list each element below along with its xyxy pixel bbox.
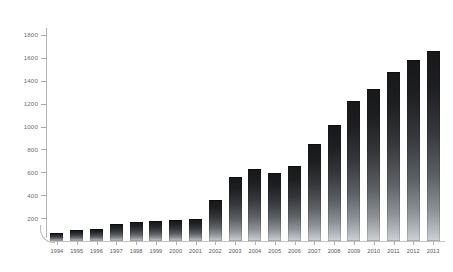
- x-tick-mark: [295, 241, 296, 245]
- x-axis-line: [47, 241, 445, 242]
- y-tick-label: 1200: [0, 100, 38, 107]
- bar: [70, 230, 83, 241]
- x-tick-mark: [334, 241, 335, 245]
- x-tick-label: 1998: [130, 248, 143, 254]
- bar-chart: 20040060080010001200140016001800 1994199…: [0, 0, 453, 272]
- x-tick-mark: [196, 241, 197, 245]
- x-tick-label: 2004: [248, 248, 261, 254]
- bar: [130, 222, 143, 241]
- x-tick-mark: [275, 241, 276, 245]
- y-tick-label: 1600: [0, 54, 38, 61]
- bar: [328, 125, 341, 241]
- bar: [110, 224, 123, 241]
- bar: [229, 177, 242, 241]
- x-tick-mark: [136, 241, 137, 245]
- x-tick-mark: [156, 241, 157, 245]
- x-tick-mark: [77, 241, 78, 245]
- x-tick-label: 2001: [189, 248, 202, 254]
- bar: [189, 219, 202, 241]
- bar: [50, 233, 63, 241]
- x-tick-mark: [116, 241, 117, 245]
- x-tick-label: 2011: [387, 248, 399, 254]
- x-tick-label: 2005: [268, 248, 281, 254]
- x-tick-mark: [97, 241, 98, 245]
- x-tick-label: 2010: [367, 248, 380, 254]
- bar: [407, 60, 420, 241]
- x-tick-mark: [235, 241, 236, 245]
- y-tick-label: 600: [0, 169, 38, 176]
- y-tick-label: 1400: [0, 77, 38, 84]
- x-tick-mark: [374, 241, 375, 245]
- bar: [347, 101, 360, 241]
- plot-area: [47, 28, 443, 241]
- x-tick-label: 2008: [328, 248, 341, 254]
- x-tick-label: 1997: [110, 248, 123, 254]
- bar: [367, 89, 380, 241]
- bar: [248, 169, 261, 241]
- x-tick-label: 2007: [308, 248, 321, 254]
- y-tick-label: 1800: [0, 31, 38, 38]
- y-tick-label: 800: [0, 146, 38, 153]
- x-tick-mark: [176, 241, 177, 245]
- x-tick-mark: [354, 241, 355, 245]
- x-tick-label: 2002: [209, 248, 222, 254]
- bar: [268, 173, 281, 241]
- bar: [149, 221, 162, 241]
- y-tick-label: 400: [0, 192, 38, 199]
- x-tick-mark: [314, 241, 315, 245]
- x-tick-label: 2012: [407, 248, 420, 254]
- x-tick-mark: [394, 241, 395, 245]
- bar: [169, 220, 182, 241]
- x-tick-label: 2000: [169, 248, 182, 254]
- x-tick-mark: [413, 241, 414, 245]
- bar: [427, 51, 440, 241]
- x-tick-label: 2003: [229, 248, 242, 254]
- x-tick-label: 2013: [427, 248, 440, 254]
- x-tick-mark: [433, 241, 434, 245]
- x-tick-mark: [215, 241, 216, 245]
- x-tick-label: 1994: [50, 248, 63, 254]
- x-tick-mark: [255, 241, 256, 245]
- bar: [288, 166, 301, 241]
- y-tick-label: 200: [0, 215, 38, 222]
- x-tick-label: 1995: [70, 248, 83, 254]
- x-tick-label: 2009: [347, 248, 360, 254]
- bar: [209, 200, 222, 241]
- x-tick-label: 2006: [288, 248, 301, 254]
- bar: [308, 144, 321, 241]
- bar: [90, 229, 103, 241]
- y-tick-label: 1000: [0, 123, 38, 130]
- x-tick-label: 1996: [90, 248, 103, 254]
- x-tick-label: 1999: [149, 248, 162, 254]
- bar: [387, 72, 400, 241]
- x-tick-mark: [57, 241, 58, 245]
